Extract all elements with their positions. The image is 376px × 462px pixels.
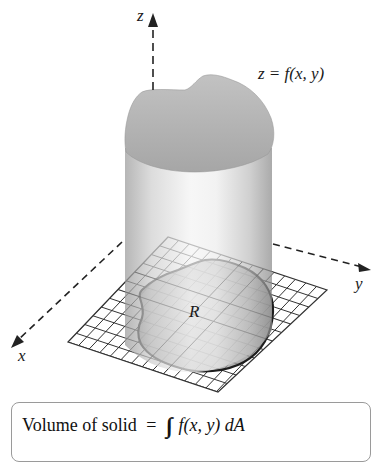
surface-equation-text: z = f(x, y) — [258, 64, 324, 83]
z-axis-arrowhead-icon — [148, 13, 158, 27]
solid-cylinder-wall — [125, 148, 272, 372]
double-integral-symbol: ∫∫ — [166, 413, 168, 438]
y-axis-arrowhead-icon — [358, 263, 371, 272]
z-axis — [148, 13, 158, 90]
region-label: R — [189, 302, 199, 322]
top-surface — [125, 75, 274, 172]
z-axis-label: z — [137, 6, 144, 26]
y-axis-label: y — [355, 274, 363, 294]
volume-formula-box: Volume of solid = ∫∫ f(x, y) dA — [11, 402, 371, 462]
formula-lhs: Volume of solid — [22, 415, 137, 435]
x-axis-label: x — [18, 346, 26, 366]
formula-equals: = — [146, 415, 156, 435]
surface-equation-label: z = f(x, y) — [258, 64, 324, 84]
volume-formula: Volume of solid = ∫∫ f(x, y) dA — [22, 411, 245, 437]
formula-integrand: f(x, y) dA — [178, 415, 244, 435]
y-axis — [273, 244, 371, 272]
